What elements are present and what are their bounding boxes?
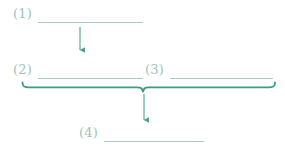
diagram-vector-layer bbox=[0, 0, 285, 151]
node-label-step-2: (2) bbox=[13, 63, 32, 76]
grouping-brace bbox=[23, 83, 276, 92]
node-label-step-1: (1) bbox=[13, 7, 32, 20]
node-label-step-4: (4) bbox=[79, 126, 98, 139]
node-label-step-3: (3) bbox=[145, 63, 164, 76]
diagram-canvas: (1) (2) (3) (4) bbox=[0, 0, 285, 151]
